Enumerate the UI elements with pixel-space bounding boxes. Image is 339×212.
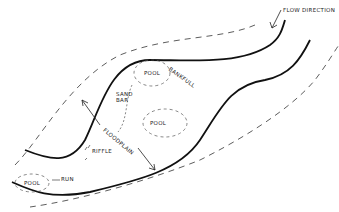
channel-bank-upper: [25, 20, 285, 158]
pool-bottom-label: POOL: [24, 180, 40, 186]
pool-top-label: POOL: [144, 70, 160, 76]
floodplain-boundary-upper: [15, 25, 255, 165]
river-diagram: [0, 0, 339, 212]
pool-middle-label: POOL: [150, 120, 166, 126]
floodplain-arrow-lower: [138, 148, 155, 170]
riffle-label: RIFFLE: [92, 148, 112, 154]
channel-bank-lower: [12, 40, 310, 195]
run-label: RUN: [61, 176, 74, 182]
flow-direction-arrow: [270, 10, 281, 28]
floodplain-boundary-lower: [30, 45, 339, 207]
flow-direction-label: FLOW DIRECTION: [283, 7, 335, 13]
sand-bar-label: SAND BAR: [116, 91, 134, 103]
riffle-marks: [85, 145, 90, 160]
